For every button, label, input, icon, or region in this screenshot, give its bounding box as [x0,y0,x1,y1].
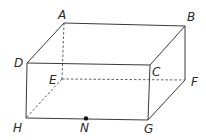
edge-DH [26,63,27,118]
label-C: C [152,65,161,79]
hidden-edge-EH [26,79,62,118]
edge-FG [148,80,185,120]
edge-BC [150,26,185,65]
prism-diagram: A B C D E F G H N [0,0,206,140]
edge-CG [148,65,150,120]
edge-AB [64,23,185,26]
label-F: F [191,75,199,89]
label-D: D [14,56,23,70]
edge-AD [27,23,64,63]
label-N: N [80,121,89,135]
label-E: E [49,73,57,87]
label-H: H [13,121,22,135]
label-B: B [187,10,195,24]
hidden-edge-AE [62,23,64,79]
label-G: G [144,122,153,136]
hidden-edge-EF [62,79,185,80]
edge-DC [27,63,150,65]
label-A: A [57,8,66,22]
point-N-marker [84,116,88,120]
